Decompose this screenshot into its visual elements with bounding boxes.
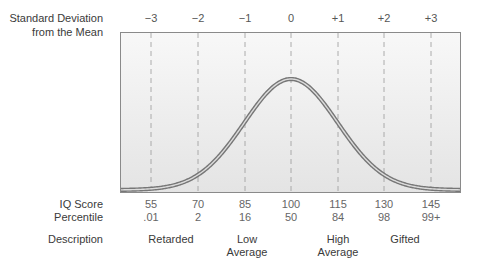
description-low-average-line2: Average xyxy=(227,246,268,259)
percentile-value: 99+ xyxy=(422,211,441,223)
percentile-value: 84 xyxy=(332,211,344,223)
percentile-value: 50 xyxy=(285,211,297,223)
percentile-value: 2 xyxy=(195,211,201,223)
percentile-value: 98 xyxy=(378,211,390,223)
description-high-average-line1: High xyxy=(327,233,350,246)
iq-value: 100 xyxy=(282,198,300,210)
normal-curve-plot xyxy=(0,0,493,272)
percentile-value: .01 xyxy=(143,211,158,223)
description-label: Description xyxy=(0,233,103,246)
description-retarded: Retarded xyxy=(148,233,193,246)
description-low-average-line1: Low xyxy=(237,233,257,246)
iq-value: 85 xyxy=(239,198,251,210)
iq-value: 115 xyxy=(329,198,347,210)
iq-value: 130 xyxy=(375,198,393,210)
percentile-value: 16 xyxy=(239,211,251,223)
percentile-label: Percentile xyxy=(0,211,103,224)
iq-value: 55 xyxy=(145,198,157,210)
iq-value: 70 xyxy=(192,198,204,210)
iq-score-label: IQ Score xyxy=(0,198,103,211)
description-gifted: Gifted xyxy=(390,233,419,246)
plot-frame xyxy=(121,33,461,193)
iq-value: 145 xyxy=(422,198,440,210)
description-high-average-line2: Average xyxy=(318,246,359,259)
